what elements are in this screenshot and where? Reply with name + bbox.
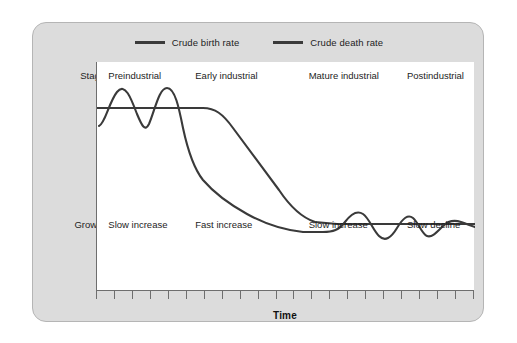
x-axis-tick — [240, 291, 241, 299]
x-axis-tick — [401, 291, 402, 299]
x-axis-tick — [347, 291, 348, 299]
x-axis-tick — [258, 291, 259, 299]
x-axis-tick — [150, 291, 151, 299]
x-axis: Time — [96, 290, 474, 330]
x-axis-tick — [204, 291, 205, 299]
x-axis-tick — [311, 291, 312, 299]
x-axis-tick — [329, 291, 330, 299]
x-axis-line — [96, 290, 474, 291]
legend-entry-birth-rate: Crude birth rate — [135, 37, 240, 48]
line-swatch-icon — [273, 41, 303, 44]
legend-label-birth-rate: Crude birth rate — [172, 37, 240, 48]
x-axis-tick — [293, 291, 294, 299]
legend-entry-death-rate: Crude death rate — [273, 37, 383, 48]
x-axis-tick — [222, 291, 223, 299]
legend-label-death-rate: Crude death rate — [310, 37, 383, 48]
x-axis-tick — [383, 291, 384, 299]
plot-area: Preindustrial Early industrial Mature in… — [96, 62, 474, 290]
x-axis-tick — [114, 291, 115, 299]
x-axis-tick — [437, 291, 438, 299]
curve-crude-birth-rate — [99, 88, 475, 239]
x-axis-tick — [419, 291, 420, 299]
x-axis-tick — [168, 291, 169, 299]
x-axis-tick — [455, 291, 456, 299]
x-axis-tick — [96, 291, 97, 299]
x-axis-tick — [365, 291, 366, 299]
figure-root: Crude birth rate Crude death rate Stage … — [0, 0, 517, 343]
figure-panel: Crude birth rate Crude death rate Stage … — [32, 22, 484, 322]
curve-crude-death-rate — [97, 108, 475, 224]
x-axis-tick — [276, 291, 277, 299]
x-axis-title: Time — [96, 310, 474, 321]
x-axis-tick — [186, 291, 187, 299]
chart-curves — [97, 62, 475, 290]
line-swatch-icon — [135, 41, 165, 44]
chart-legend: Crude birth rate Crude death rate — [33, 37, 485, 48]
x-axis-tick — [473, 291, 474, 299]
x-axis-tick — [132, 291, 133, 299]
